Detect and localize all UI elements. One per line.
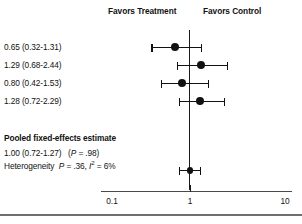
axis-tick-label: 0.1 [106,196,118,206]
axis-tick [190,185,191,192]
ci-upper-cap [224,98,225,106]
point-estimate-marker [196,97,204,105]
favors-control-header: Favors Control [203,6,261,16]
study-ci-marker [0,78,302,89]
ci-lower-cap [179,98,180,106]
study-ci-marker [0,60,302,71]
ci-upper-cap [201,44,202,52]
point-estimate-marker [178,79,186,87]
bottom-divider [0,214,302,216]
pooled-estimate-title: Pooled fixed-effects estimate [4,133,116,143]
study-ci-marker [0,42,302,53]
ci-upper-cap [200,167,201,175]
forest-plot: Favors Treatment Favors Control 0.65 (0.… [0,0,302,224]
x-axis-line [101,191,292,192]
pooled-estimate-ci: 1.00 (0.72-1.27) [4,148,61,158]
ci-lower-cap [161,80,162,88]
ci-lower-cap [151,44,152,52]
axis-tick-label: 10 [280,196,289,206]
ci-upper-cap [227,62,228,70]
point-estimate-marker [187,167,193,173]
point-estimate-marker [171,43,179,51]
ci-upper-cap [208,80,209,88]
pooled-ci-marker [0,165,302,176]
axis-tick-label: 1 [188,196,193,206]
ci-lower-cap [177,62,178,70]
ci-lower-cap [179,167,180,175]
pooled-estimate-value: 1.00 (0.72-1.27) (P = .98) [4,148,99,158]
point-estimate-marker [197,61,205,69]
favors-treatment-header: Favors Treatment [108,6,176,16]
study-ci-marker [0,96,302,107]
